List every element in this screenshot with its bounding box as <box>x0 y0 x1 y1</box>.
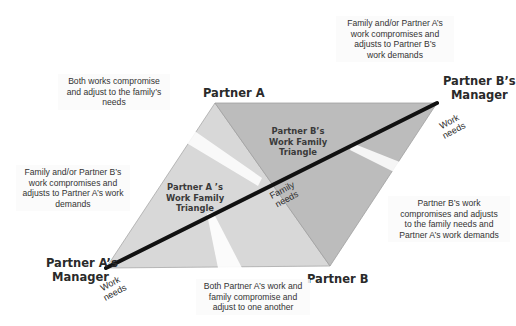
callout-top-left-line2: and adjust to the family’s <box>61 87 167 98</box>
vertex-label-partner-b: Partner B <box>307 272 368 286</box>
callout-right-line2: compromises and adjusts <box>391 209 507 220</box>
vertex-label-partner-b-manager: Partner B’s Manager <box>443 74 516 102</box>
callout-left-line1: Family and/or Partner B’s <box>19 167 127 178</box>
triangle-a-line2: Work Family <box>166 193 224 204</box>
vertex-label-partner-a: Partner A <box>203 86 265 100</box>
callout-top-right-line2: work compromises and <box>339 29 451 40</box>
triangle-a-line1: Partner A ’s <box>166 182 224 193</box>
callout-bottom-line3: adjust to one another <box>199 302 307 313</box>
triangle-label-partner-a: Partner A ’s Work Family Triangle <box>166 182 224 214</box>
triangle-b-line2: Work Family <box>269 137 327 148</box>
callout-top-right-line3: adjusts to Partner B’s <box>339 39 451 50</box>
partner-b-manager-line2: Manager <box>443 88 516 102</box>
callout-left-line4: demands <box>19 199 127 210</box>
triangle-a-line3: Triangle <box>166 203 224 214</box>
callout-top-left: Both works compromise and adjust to the … <box>58 74 170 110</box>
partner-b-manager-line1: Partner B’s <box>443 74 516 88</box>
callout-left: Family and/or Partner B’s work compromis… <box>16 165 130 211</box>
triangle-b-line3: Triangle <box>269 147 327 158</box>
callout-left-line3: adjusts to Partner A’s work <box>19 188 127 199</box>
partner-a-text: Partner A <box>203 86 265 100</box>
callout-right-line3: to the family needs and <box>391 219 507 230</box>
callout-top-left-line3: needs <box>61 97 167 108</box>
callout-right: Partner B’s work compromises and adjusts… <box>388 196 510 242</box>
callout-top-right-line1: Family and/or Partner A’s <box>339 18 451 29</box>
callout-top-right: Family and/or Partner A’s work compromis… <box>336 16 454 62</box>
callout-right-line1: Partner B’s work <box>391 198 507 209</box>
callout-bottom: Both Partner A’s work and family comprom… <box>196 279 310 315</box>
callout-bottom-line1: Both Partner A’s work and <box>199 281 307 292</box>
callout-right-line4: Partner A’s work demands <box>391 230 507 241</box>
callout-top-right-line4: work demands <box>339 50 451 61</box>
triangle-b-line1: Partner B’s <box>269 126 327 137</box>
callout-pointer-top-right <box>405 63 436 101</box>
triangle-label-partner-b: Partner B’s Work Family Triangle <box>269 126 327 158</box>
partner-b-text: Partner B <box>307 272 368 286</box>
callout-bottom-line2: family compromise and <box>199 292 307 303</box>
callout-top-left-line1: Both works compromise <box>61 76 167 87</box>
partner-a-manager-line1: Partner A’s <box>46 256 118 270</box>
callout-left-line2: work compromises and <box>19 178 127 189</box>
